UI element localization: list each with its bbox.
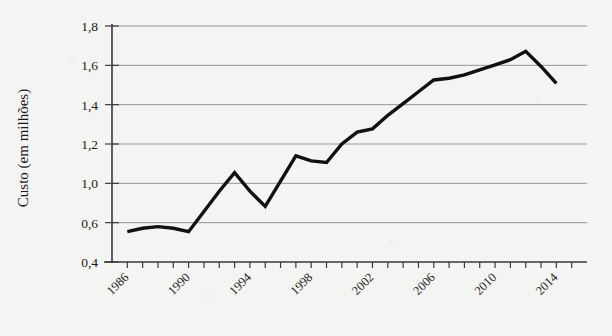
y-tick-label: 0,4	[81, 255, 98, 270]
y-tick-label: 1,0	[81, 176, 98, 191]
y-tick-label: 1,6	[81, 58, 98, 73]
y-tick-label: 1,4	[81, 98, 98, 113]
chart-canvas: 1,81,61,41,21,00,60,4 198619901994199820…	[0, 0, 612, 336]
y-tick-label: 1,2	[81, 137, 98, 152]
y-tick-label: 1,8	[81, 19, 98, 34]
y-axis-title: Custo (em milhões)	[15, 89, 32, 207]
line-chart: 1,81,61,41,21,00,60,4 198619901994199820…	[0, 0, 612, 336]
y-tick-label: 0,6	[81, 216, 98, 231]
